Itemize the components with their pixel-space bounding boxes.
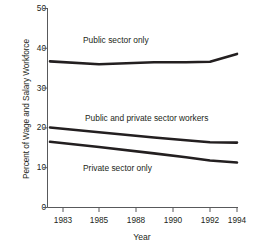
chart-container: Percent of Wage and Salary Workforce 50 … bbox=[0, 0, 258, 252]
line-public-sector-only bbox=[50, 54, 237, 64]
line-public-and-private bbox=[50, 128, 237, 143]
y-axis-ticks bbox=[43, 9, 48, 208]
plot-area bbox=[0, 0, 258, 252]
x-axis-ticks bbox=[63, 208, 237, 213]
axis-lines bbox=[48, 8, 239, 208]
line-private-sector-only bbox=[50, 142, 237, 163]
data-lines bbox=[50, 54, 237, 163]
